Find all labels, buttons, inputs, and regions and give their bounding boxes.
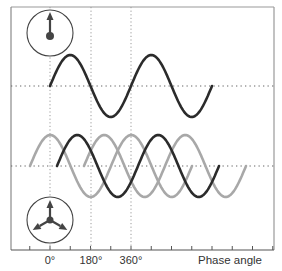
tick-label-180: 180° xyxy=(80,254,103,266)
single-phase-phasor-icon xyxy=(27,10,73,56)
x-axis-label: Phase angle xyxy=(198,254,262,266)
waveforms xyxy=(30,55,246,197)
three-phase-phasor-icon xyxy=(27,197,73,243)
phase-diagram: 0° 180° 360° Phase angle xyxy=(0,0,282,271)
tick-label-360: 360° xyxy=(120,254,143,266)
tick-label-0: 0° xyxy=(45,254,56,266)
diagram-canvas: 0° 180° 360° Phase angle xyxy=(0,0,282,271)
